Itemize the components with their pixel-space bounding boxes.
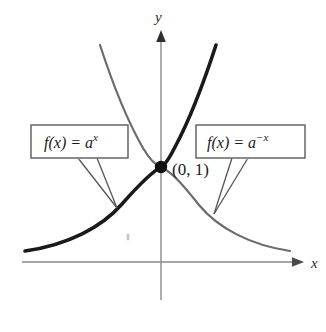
exponential-functions-figure: y x (0, 1) f(x) = ax (0, 0, 326, 332)
left-callout-base: f(x) = a (44, 134, 93, 152)
point-label: (0, 1) (172, 160, 209, 179)
left-callout-exponent: x (92, 131, 98, 143)
x-axis-label: x (310, 255, 318, 271)
left-callout-box[interactable]: f(x) = ax (31, 125, 128, 158)
svg-text:f(x) = ax: f(x) = ax (44, 131, 98, 152)
right-callout-leader (214, 158, 248, 214)
right-callout-box[interactable]: f(x) = a−x (196, 125, 305, 158)
scan-artifact (126, 234, 129, 241)
intersection-point (155, 161, 167, 173)
left-callout-leader (78, 158, 117, 208)
y-axis-label: y (153, 9, 162, 25)
right-callout-exponent: −x (256, 131, 268, 143)
x-axis (22, 257, 304, 267)
right-callout-base: f(x) = a (207, 134, 256, 152)
